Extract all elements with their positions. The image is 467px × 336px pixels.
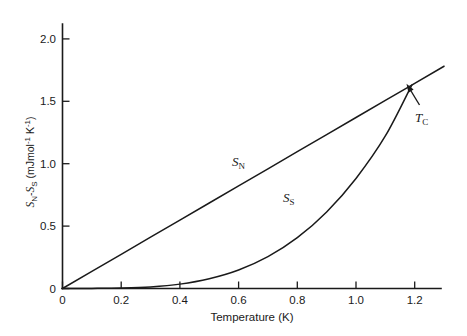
y-axis-ticks xyxy=(63,39,70,289)
x-tick-label-1: 0.2 xyxy=(113,294,129,306)
y-tick-label-2: 1.0 xyxy=(40,158,56,170)
x-tick-label-0: 0 xyxy=(59,294,65,306)
y-axis-title-unit-close: ) xyxy=(24,116,36,120)
y-tick-label-4: 2.0 xyxy=(40,33,56,45)
y-tick-label-1: 0.5 xyxy=(40,220,56,232)
x-tick-label-2: 0.4 xyxy=(172,294,189,306)
y-tick-label-0: 0 xyxy=(50,283,56,295)
tc-annotation-label: TC xyxy=(415,110,428,127)
curve-normal-state xyxy=(63,66,445,288)
x-axis-title: Temperature (K) xyxy=(210,311,293,323)
x-tick-label-3: 0.6 xyxy=(231,294,247,306)
tc-label-sub: C xyxy=(422,117,428,127)
chart-canvas: 0 0.5 1.0 1.5 2.0 0 0.2 0.4 0.6 0.8 1.0 … xyxy=(0,0,467,336)
entropy-difference-figure: 0 0.5 1.0 1.5 2.0 0 0.2 0.4 0.6 0.8 1.0 … xyxy=(0,0,467,336)
svg-text:SN-SS (mJmol-1 K-1): SN-SS (mJmol-1 K-1) xyxy=(23,116,39,207)
curve-label-ss: SS xyxy=(283,190,295,207)
x-tick-label-5: 1.0 xyxy=(348,294,364,306)
curve-label-sn-sub: N xyxy=(239,161,246,171)
y-tick-label-3: 1.5 xyxy=(40,95,56,107)
y-axis-title-unit-open: (mJmol xyxy=(24,144,36,181)
y-axis-title-unit-mid: K xyxy=(24,127,36,137)
tc-arrow-icon xyxy=(407,84,420,105)
y-axis-title: SN-SS (mJmol-1 K-1) xyxy=(23,116,39,207)
curve-label-ss-sub: S xyxy=(290,197,295,207)
x-tick-label-4: 0.8 xyxy=(289,294,305,306)
curve-label-sn: SN xyxy=(232,154,246,171)
x-tick-label-6: 1.2 xyxy=(407,294,423,306)
